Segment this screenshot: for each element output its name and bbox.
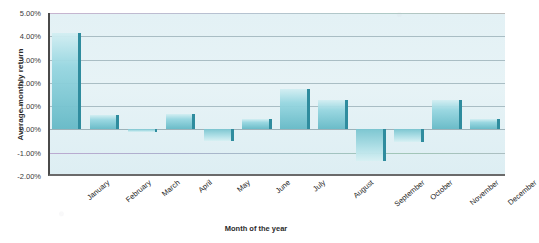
plot-area (48, 13, 505, 176)
bar (90, 115, 120, 129)
x-tick-label: March (160, 178, 182, 198)
x-tick-label: April (197, 178, 214, 195)
bar (356, 129, 386, 160)
bar-slot (202, 13, 240, 174)
x-tick-label: November (468, 178, 500, 207)
bar-slot (393, 13, 431, 174)
y-axis-tick-labels: 5.00%4.00%3.00%2.00%1.00%0.00%-1.00%-2.0… (0, 13, 45, 176)
x-tick-label: June (273, 178, 291, 195)
bar (470, 119, 500, 129)
bar-slot (50, 13, 88, 174)
y-tick-label: 4.00% (20, 32, 41, 41)
x-axis-tick-labels: JanuaryFebruaryMarchAprilMayJuneJulyAugu… (48, 178, 505, 222)
y-tick-label: 3.00% (20, 55, 41, 64)
bar-slot (164, 13, 202, 174)
x-tick-label: December (506, 178, 538, 207)
x-tick-label: October (428, 178, 454, 202)
bar-slot (240, 13, 278, 174)
bar (166, 114, 196, 129)
bar (128, 129, 158, 131)
bar-series (50, 13, 505, 174)
x-tick-label: May (235, 178, 252, 194)
x-tick-label: September (392, 178, 426, 208)
y-tick-label: -1.00% (17, 148, 41, 157)
bar-slot (355, 13, 393, 174)
bar-slot (88, 13, 126, 174)
y-tick-label: 5.00% (20, 9, 41, 18)
bar-slot (469, 13, 505, 174)
bar (280, 89, 310, 130)
bar (204, 129, 234, 141)
bar (52, 33, 82, 130)
bar-slot (317, 13, 355, 174)
bar-slot (126, 13, 164, 174)
y-tick-label: -2.00% (17, 172, 41, 181)
y-tick-label: 2.00% (20, 78, 41, 87)
bar-slot (431, 13, 469, 174)
y-tick-label: 0.00% (20, 125, 41, 134)
bar (432, 100, 462, 129)
bar-slot (279, 13, 317, 174)
y-tick-label: 1.00% (20, 102, 41, 111)
x-tick-label: January (85, 178, 111, 202)
bar (394, 129, 424, 142)
x-axis-title: Month of the year (0, 224, 512, 233)
bar (242, 119, 272, 129)
x-tick-label: August (351, 178, 375, 200)
x-tick-label: July (311, 178, 327, 193)
bar (318, 100, 348, 129)
x-tick-label: February (124, 178, 153, 204)
